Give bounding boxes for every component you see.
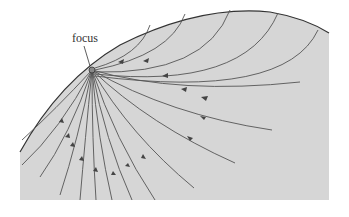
diagram-canvas: focus [0, 0, 349, 217]
flow-region [20, 11, 329, 200]
focus-leader-line [84, 46, 90, 66]
streamline-diagram: focus [0, 0, 349, 217]
focus-label: focus [72, 31, 98, 45]
focus-point [89, 67, 95, 73]
